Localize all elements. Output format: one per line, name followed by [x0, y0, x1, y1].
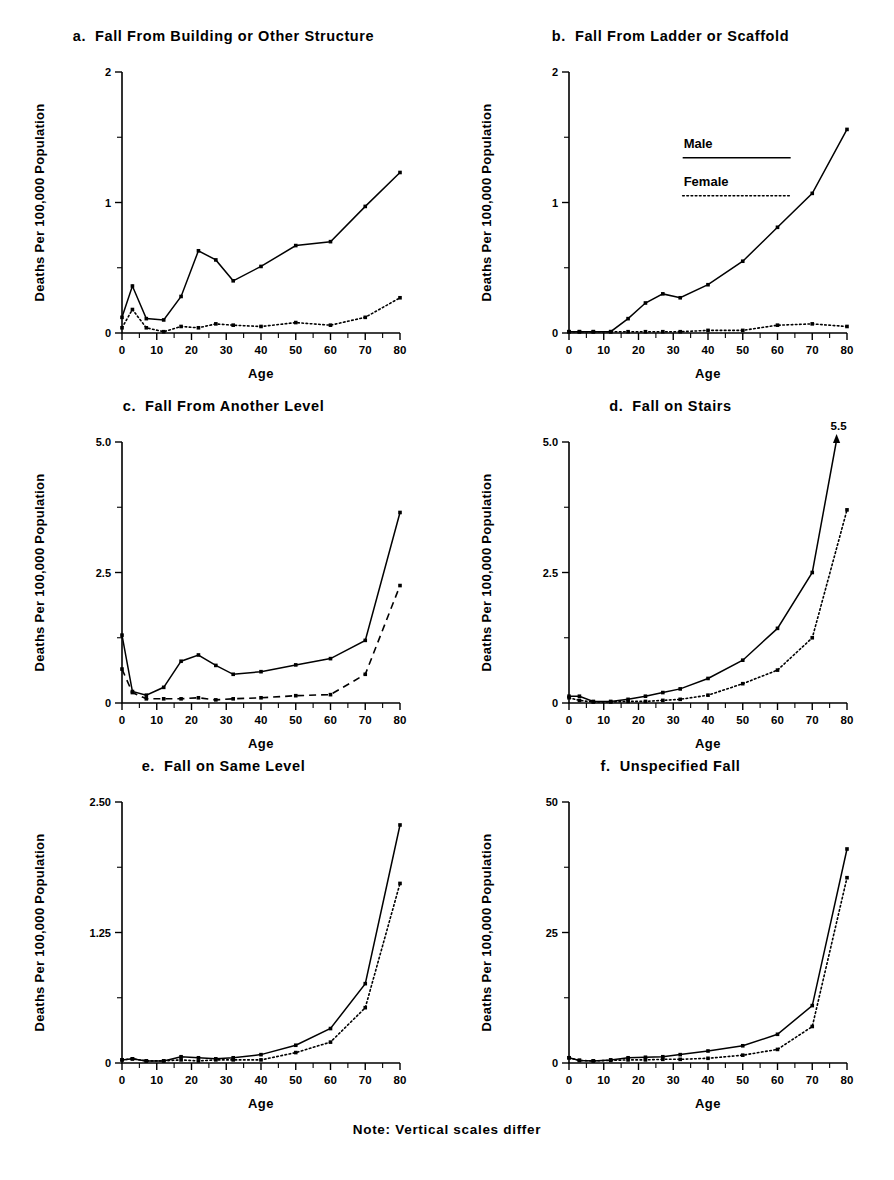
y-tick-label: 2 [105, 66, 111, 78]
data-point [162, 318, 166, 322]
data-point [592, 700, 596, 704]
data-point [706, 283, 710, 287]
data-point [845, 325, 849, 329]
x-tick-label: 40 [255, 1074, 268, 1086]
data-point [567, 330, 571, 334]
data-point [363, 672, 367, 676]
data-point [214, 322, 218, 326]
data-point [398, 882, 402, 886]
y-tick-label: 2 [552, 66, 558, 78]
axis-lines [569, 72, 847, 333]
series-line-female [122, 883, 400, 1061]
panel-b: b.Fall From Ladder or Scaffold 010203040… [447, 20, 894, 400]
data-point [609, 330, 613, 334]
x-axis-label: Age [695, 736, 721, 751]
panel-e: e.Fall on Same Level 01020304050607080Ag… [0, 750, 447, 1130]
data-point [626, 1058, 630, 1062]
y-axis-label: Deaths Per 100,000 Population [32, 474, 47, 672]
x-tick-label: 30 [220, 714, 233, 726]
data-point [145, 317, 149, 321]
y-tick-label: 1 [552, 197, 558, 209]
data-point [845, 876, 849, 880]
y-tick-label: 2.5 [96, 567, 111, 579]
data-point [741, 1053, 745, 1057]
data-point [294, 244, 298, 248]
x-tick-label: 60 [324, 344, 337, 356]
x-tick-label: 30 [220, 1074, 233, 1086]
data-point [145, 326, 149, 330]
y-tick-label: 2.5 [543, 567, 558, 579]
y-tick-label: 5.0 [543, 436, 558, 448]
data-point [741, 658, 745, 662]
data-point [120, 1058, 124, 1062]
data-point [644, 694, 648, 698]
data-point [179, 659, 183, 663]
data-point [259, 670, 263, 674]
data-point [231, 279, 235, 283]
axis-lines [122, 72, 400, 333]
x-tick-label: 50 [736, 344, 749, 356]
data-point [678, 687, 682, 691]
plot-d: 01020304050607080Age02.55.0Deaths Per 10… [447, 390, 894, 770]
data-point [231, 697, 235, 701]
data-point [661, 691, 665, 695]
data-point [578, 694, 582, 698]
data-point [661, 1058, 665, 1062]
x-tick-label: 70 [806, 714, 819, 726]
data-point [776, 323, 780, 327]
series-line-female [569, 878, 847, 1061]
data-point [592, 1059, 596, 1063]
data-point [145, 693, 149, 697]
x-tick-label: 0 [566, 714, 572, 726]
data-point [197, 696, 201, 700]
data-point [626, 330, 630, 334]
data-point [644, 700, 648, 704]
data-point [706, 677, 710, 681]
panel-d: d.Fall on Stairs 01020304050607080Age02.… [447, 390, 894, 770]
x-tick-label: 40 [255, 714, 268, 726]
x-tick-label: 0 [119, 714, 125, 726]
x-tick-label: 10 [150, 344, 163, 356]
x-tick-label: 0 [119, 344, 125, 356]
y-axis-label: Deaths Per 100,000 Population [479, 474, 494, 672]
plot-c: 01020304050607080Age02.55.0Deaths Per 10… [0, 390, 447, 770]
legend-label-female: Female [684, 174, 729, 189]
data-point [259, 325, 263, 329]
data-point [363, 1006, 367, 1010]
y-axis-label: Deaths Per 100,000 Population [479, 834, 494, 1032]
x-tick-label: 10 [597, 714, 610, 726]
axis-lines [569, 802, 847, 1063]
x-tick-label: 50 [736, 1074, 749, 1086]
y-axis-label: Deaths Per 100,000 Population [32, 104, 47, 302]
x-tick-label: 50 [289, 714, 302, 726]
data-point [398, 171, 402, 175]
data-point [706, 1057, 710, 1061]
series-line-male [569, 440, 837, 701]
x-tick-label: 60 [771, 344, 784, 356]
data-point [162, 1059, 166, 1063]
data-point [259, 1053, 263, 1057]
data-point [678, 296, 682, 300]
data-point [741, 329, 745, 333]
data-point [810, 192, 814, 196]
x-tick-label: 0 [119, 1074, 125, 1086]
data-point [776, 668, 780, 672]
data-point [197, 1056, 201, 1060]
data-point [294, 1043, 298, 1047]
data-point [567, 696, 571, 700]
y-tick-label: 0 [105, 697, 111, 709]
data-point [131, 284, 135, 288]
data-point [294, 1051, 298, 1055]
x-tick-label: 80 [841, 714, 854, 726]
series-line-male [569, 849, 847, 1061]
data-point [329, 657, 333, 661]
data-point [214, 664, 218, 668]
panel-a: a.Fall From Building or Other Structure … [0, 20, 447, 400]
data-point [678, 330, 682, 334]
data-point [706, 329, 710, 333]
data-point [231, 323, 235, 327]
x-tick-label: 30 [667, 1074, 680, 1086]
x-tick-label: 70 [359, 714, 372, 726]
x-tick-label: 30 [220, 344, 233, 356]
data-point [609, 700, 613, 704]
